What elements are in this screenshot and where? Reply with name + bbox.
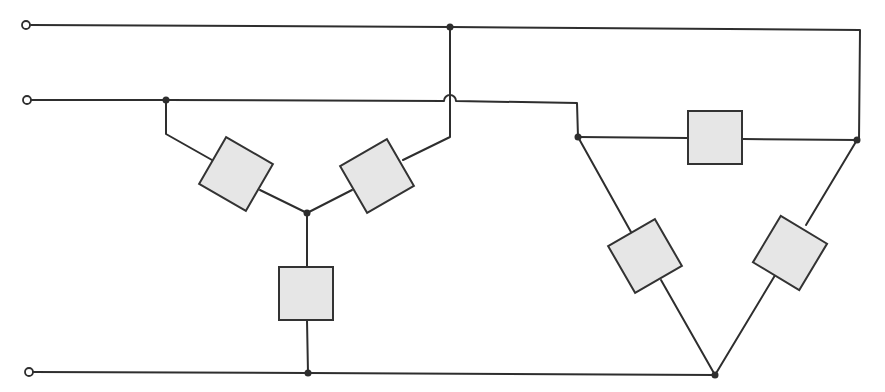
terminal-2 xyxy=(23,96,31,104)
star-load xyxy=(166,100,414,373)
delta-load xyxy=(575,111,861,379)
terminal-3 xyxy=(25,368,33,376)
delta-impedance-right xyxy=(753,216,827,290)
terminal-1 xyxy=(22,21,30,29)
supply-line-3 xyxy=(25,368,715,377)
supply-line-2 xyxy=(23,95,578,137)
star-impedance-left xyxy=(199,137,273,211)
star-neutral-point xyxy=(304,210,311,217)
delta-vertex-left xyxy=(575,134,582,141)
star-feed-line-1 xyxy=(403,27,450,160)
star-impedance-bottom xyxy=(279,267,333,320)
star-impedance-right xyxy=(340,139,414,213)
delta-vertex-right xyxy=(854,137,861,144)
delta-impedance-left xyxy=(608,219,682,293)
delta-vertex-bottom xyxy=(712,372,719,379)
three-phase-circuit-diagram xyxy=(0,0,885,392)
delta-impedance-top xyxy=(688,111,742,164)
